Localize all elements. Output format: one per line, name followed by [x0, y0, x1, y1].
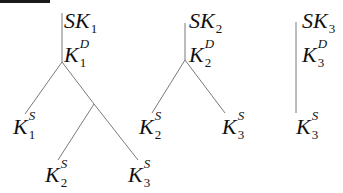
- label-sup: D: [318, 38, 327, 49]
- label-base: K: [189, 44, 204, 66]
- label-sub: 1: [80, 57, 89, 68]
- label-sub: 1: [91, 18, 98, 40]
- label-base: K: [302, 44, 317, 66]
- label-base: K: [296, 116, 311, 138]
- tree1-leaf-2-label: KS2: [45, 164, 67, 188]
- label-sup: D: [205, 38, 214, 49]
- tree3-root-label: SK3: [302, 10, 335, 35]
- label-sub: 3: [144, 177, 151, 188]
- label-sup: S: [155, 110, 162, 121]
- label-base: K: [45, 164, 60, 186]
- tree2-internal-label: KD2: [189, 44, 214, 68]
- tree2-root-label: SK2: [189, 10, 222, 35]
- label-sub: 2: [155, 129, 162, 140]
- tree2-leaf-1-label: KS2: [139, 116, 161, 140]
- label-base: SK: [189, 10, 215, 32]
- tree1-root-label: SK1: [64, 10, 97, 35]
- tree1-internal-label: KD1: [64, 44, 89, 68]
- label-sub: 3: [318, 57, 327, 68]
- tree1-sub-left-branch: [58, 104, 94, 160]
- label-base: SK: [302, 10, 328, 32]
- label-base: K: [13, 116, 28, 138]
- label-sub: 1: [29, 129, 36, 140]
- tree2-left-branch: [152, 60, 185, 113]
- label-sup: S: [61, 158, 68, 169]
- label-sub: 2: [216, 18, 223, 40]
- tree1-right-branch: [62, 62, 94, 104]
- label-sub: 3: [238, 129, 245, 140]
- label-sub: 2: [61, 177, 68, 188]
- label-sub: 3: [329, 18, 336, 40]
- tree2-leaf-2-label: KS3: [222, 116, 244, 140]
- tree1-leaf-3-label: KS3: [128, 164, 150, 188]
- label-sup: S: [238, 110, 245, 121]
- label-sup: S: [144, 158, 151, 169]
- label-base: K: [139, 116, 154, 138]
- label-base: K: [222, 116, 237, 138]
- tree1-leaf-1-label: KS1: [13, 116, 35, 140]
- label-base: K: [128, 164, 143, 186]
- tree3-internal-label: KD3: [302, 44, 327, 68]
- tree1-sub-right-branch: [94, 104, 138, 160]
- label-base: SK: [64, 10, 90, 32]
- label-sub: 2: [205, 57, 214, 68]
- label-sup: S: [29, 110, 36, 121]
- label-base: K: [64, 44, 79, 66]
- tree3-leaf-1-label: KS3: [296, 116, 318, 140]
- label-sub: 3: [312, 129, 319, 140]
- label-sup: D: [80, 38, 89, 49]
- label-sup: S: [312, 110, 319, 121]
- tree1-left-branch: [25, 62, 62, 114]
